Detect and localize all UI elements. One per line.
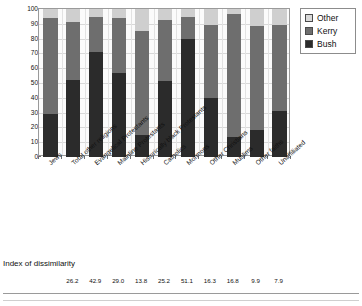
y-tick-label: 40 bbox=[16, 93, 38, 100]
bar-segment-other bbox=[158, 9, 172, 20]
bar-segment-kerry bbox=[66, 22, 80, 80]
index-value: 26.2 bbox=[66, 277, 78, 284]
bar-segment-other bbox=[89, 9, 103, 17]
index-of-dissimilarity-title: Index of dissimilarity bbox=[3, 259, 75, 268]
index-value: 51.1 bbox=[181, 277, 193, 284]
bar-column bbox=[181, 9, 195, 155]
bar-segment-other bbox=[66, 9, 80, 22]
index-value: 16.3 bbox=[204, 277, 216, 284]
y-tick-label: 100 bbox=[16, 5, 38, 12]
bar-segment-bush bbox=[181, 39, 195, 157]
bar-segment-kerry bbox=[272, 25, 286, 112]
bar-column bbox=[250, 9, 264, 155]
x-tick-mark bbox=[38, 156, 39, 159]
plot-area bbox=[38, 8, 290, 156]
bar-segment-other bbox=[204, 9, 218, 25]
bar-segment-other bbox=[135, 9, 149, 31]
legend-swatch-icon bbox=[305, 14, 313, 22]
bar-segment-bush bbox=[43, 114, 57, 157]
legend-swatch-icon bbox=[305, 27, 313, 35]
y-tick-label: 10 bbox=[16, 138, 38, 145]
bar-segment-kerry bbox=[158, 20, 172, 81]
bar-segment-kerry bbox=[43, 18, 57, 114]
chart-legend: OtherKerryBush bbox=[300, 8, 356, 54]
bar-segment-other bbox=[227, 9, 241, 14]
divider-bottom bbox=[3, 300, 359, 301]
bar-column bbox=[43, 9, 57, 155]
index-value: 7.9 bbox=[274, 277, 283, 284]
bars-layer bbox=[39, 9, 289, 155]
bar-segment-other bbox=[112, 9, 126, 18]
y-tick-label: 0 bbox=[16, 153, 38, 160]
bar-segment-other bbox=[272, 9, 286, 25]
legend-item-bush[interactable]: Bush bbox=[305, 38, 352, 50]
bar-column bbox=[204, 9, 218, 155]
stacked-bar-chart: 0102030405060708090100 Percentages JewsT… bbox=[0, 0, 362, 306]
bar-segment-kerry bbox=[112, 18, 126, 73]
bar-segment-other bbox=[43, 9, 57, 18]
index-value: 13.8 bbox=[135, 277, 147, 284]
legend-item-label: Bush bbox=[317, 40, 336, 49]
bar-column bbox=[66, 9, 80, 155]
index-value: 29.0 bbox=[112, 277, 124, 284]
bar-segment-bush bbox=[66, 80, 80, 157]
y-tick-label: 20 bbox=[16, 123, 38, 130]
bar-segment-kerry bbox=[204, 25, 218, 98]
index-value: 25.2 bbox=[158, 277, 170, 284]
y-tick-label: 60 bbox=[16, 64, 38, 71]
y-axis: 0102030405060708090100 bbox=[14, 8, 38, 156]
legend-item-kerry[interactable]: Kerry bbox=[305, 25, 352, 37]
index-value: 16.8 bbox=[227, 277, 239, 284]
bar-segment-other bbox=[250, 9, 264, 26]
index-value: 9.9 bbox=[251, 277, 260, 284]
legend-item-label: Kerry bbox=[317, 27, 337, 36]
legend-swatch-icon bbox=[305, 40, 313, 48]
y-tick-label: 90 bbox=[16, 19, 38, 26]
bar-segment-kerry bbox=[227, 14, 241, 137]
bar-segment-kerry bbox=[250, 26, 264, 130]
y-tick-label: 50 bbox=[16, 79, 38, 86]
legend-item-label: Other bbox=[317, 14, 338, 23]
bar-segment-kerry bbox=[89, 17, 103, 52]
bar-segment-other bbox=[181, 9, 195, 17]
index-value: 42.9 bbox=[89, 277, 101, 284]
legend-item-other[interactable]: Other bbox=[305, 12, 352, 24]
bar-column bbox=[272, 9, 286, 155]
bar-segment-kerry bbox=[181, 17, 195, 40]
y-tick-label: 30 bbox=[16, 108, 38, 115]
y-tick-label: 70 bbox=[16, 49, 38, 56]
divider-top bbox=[3, 293, 359, 294]
y-tick-label: 80 bbox=[16, 34, 38, 41]
